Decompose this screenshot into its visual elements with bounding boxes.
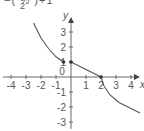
- y-tick-label: 3: [60, 27, 66, 38]
- plot-area: [34, 23, 141, 113]
- y-tick-label: -1: [57, 87, 66, 98]
- x-tick-label: -3: [22, 80, 31, 91]
- y-tick-label: -2: [57, 102, 66, 113]
- x-axis-label: x: [139, 79, 144, 90]
- series-left-curve: [34, 23, 64, 62]
- axes: [3, 17, 140, 129]
- x-tick-label: 3: [113, 80, 119, 91]
- x-tick-label: 4: [128, 80, 134, 91]
- data-point-marker: [69, 60, 73, 64]
- tick-labels: xy-4-3-2-101234-3-2-1123: [7, 10, 144, 128]
- data-point-marker: [62, 60, 66, 64]
- series-middle-segment: [71, 62, 101, 77]
- x-tick-label: -2: [37, 80, 46, 91]
- x-tick-label: 1: [83, 80, 89, 91]
- y-tick-label: 2: [60, 42, 66, 53]
- x-tick-label: -4: [7, 80, 16, 91]
- y-tick-label: -3: [57, 117, 66, 128]
- series-right-curve: [101, 77, 140, 113]
- function-graph: xy-4-3-2-101234-3-2-1123: [0, 0, 144, 131]
- y-axis-arrow-icon: [68, 17, 74, 23]
- data-point-marker: [99, 75, 103, 79]
- y-axis-label: y: [62, 10, 69, 21]
